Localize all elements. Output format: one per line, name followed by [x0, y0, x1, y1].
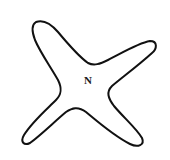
diagram-canvas: N [0, 0, 170, 160]
center-label: N [80, 73, 96, 87]
